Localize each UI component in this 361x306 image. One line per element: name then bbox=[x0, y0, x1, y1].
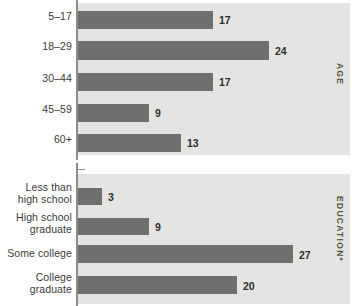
bar-value-label: 13 bbox=[187, 137, 199, 149]
bar bbox=[78, 104, 149, 122]
category-label: 5–17 bbox=[48, 11, 72, 23]
bar-value-label: 20 bbox=[243, 280, 255, 292]
bar-value-label: 9 bbox=[155, 221, 161, 233]
bar bbox=[78, 41, 269, 60]
category-label-line1: Less than bbox=[26, 181, 72, 193]
bar bbox=[78, 276, 237, 294]
category-label: 30–44 bbox=[42, 73, 72, 85]
axis-tick bbox=[78, 169, 85, 170]
category-label-line2: graduate bbox=[30, 223, 72, 235]
category-label-line1: Some college bbox=[7, 247, 72, 259]
category-label: Some college bbox=[7, 248, 72, 260]
category-label-line1: College bbox=[36, 271, 72, 283]
category-label-line2: high school bbox=[18, 193, 72, 205]
bar bbox=[78, 134, 181, 152]
category-label: Less than high school bbox=[18, 182, 72, 205]
bar-chart: 5–17 17 18–29 24 30–44 17 45–59 9 60+ 13… bbox=[0, 0, 361, 306]
bar bbox=[78, 218, 149, 235]
category-label: 60+ bbox=[54, 134, 72, 146]
bar bbox=[78, 188, 102, 205]
category-label: 18–29 bbox=[42, 41, 72, 53]
category-label: College graduate bbox=[30, 272, 72, 295]
category-label-line2: graduate bbox=[30, 283, 72, 295]
bar-value-label: 3 bbox=[108, 191, 114, 203]
group-caption-age: AGE bbox=[335, 63, 345, 85]
bar bbox=[78, 11, 213, 29]
bar-value-label: 9 bbox=[155, 107, 161, 119]
category-label: 45–59 bbox=[42, 104, 72, 116]
bar-value-label: 27 bbox=[299, 249, 311, 261]
category-label: High school graduate bbox=[16, 212, 72, 235]
bar bbox=[78, 245, 293, 263]
group-caption-education: EDUCATION* bbox=[335, 196, 345, 262]
bar-value-label: 17 bbox=[219, 76, 231, 88]
bar-value-label: 17 bbox=[219, 14, 231, 26]
category-label-line1: High school bbox=[16, 211, 72, 223]
bar-value-label: 24 bbox=[275, 45, 287, 57]
bar bbox=[78, 73, 213, 91]
